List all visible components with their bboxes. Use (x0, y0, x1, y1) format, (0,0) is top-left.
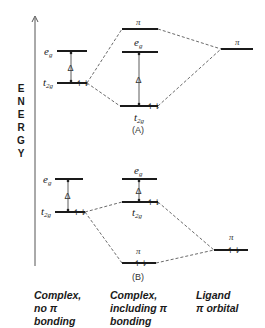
caption-line: Ligand (196, 289, 238, 302)
eg-label: eg (44, 45, 53, 59)
delta-symbol: Δ (136, 186, 142, 196)
correlation-line (158, 202, 214, 250)
pi-label: π (229, 232, 234, 242)
caption-including-pi-bonding: Complex, including π bonding (110, 289, 167, 328)
caption-line: no π (34, 302, 81, 315)
correlation-line (156, 250, 214, 263)
electron-pair: ↿⇂ (147, 102, 160, 111)
electron-pair: ↿⇂ (134, 259, 147, 268)
correlation-line (158, 29, 221, 49)
delta-symbol: Δ (65, 191, 71, 201)
correlation-line (85, 212, 122, 263)
eg-label: eg (134, 164, 143, 178)
pi-label: π (136, 246, 141, 256)
eg-label: eg (43, 173, 52, 187)
pi-label: π (136, 17, 141, 27)
panel-a: eg t2g ↿⇂ Δ π eg ↿⇂ t2g Δ (A) π (43, 17, 253, 135)
panel-b: eg t2g ↿⇂ Δ eg ↿⇂ t2g Δ π ↿⇂ (B) π ↿⇂ (41, 164, 248, 282)
pi-label: π (235, 37, 240, 47)
caption-line: bonding (34, 315, 81, 328)
panel-b-tag: (B) (132, 272, 144, 282)
correlation-line (87, 29, 122, 83)
eg-label: eg (134, 36, 143, 50)
correlation-line (158, 49, 221, 106)
caption-no-pi-bonding: Complex, no π bonding (34, 289, 81, 328)
electron-pair: ↿⇂ (73, 208, 86, 217)
t2g-label: t2g (134, 111, 145, 125)
t2g-label: t2g (41, 205, 52, 219)
correlation-line (87, 83, 120, 106)
caption-line: bonding (110, 315, 167, 328)
mo-diagram: eg t2g ↿⇂ Δ π eg ↿⇂ t2g Δ (A) π eg t2g ↿ (0, 0, 265, 328)
caption-line: including π (110, 302, 167, 315)
caption-line: Complex, (34, 289, 81, 302)
delta-symbol: Δ (68, 63, 74, 73)
caption-line: π orbital (196, 302, 238, 315)
caption-ligand-pi-orbital: Ligand π orbital (196, 289, 238, 315)
t2g-label: t2g (132, 206, 143, 220)
t2g-label: t2g (43, 76, 54, 90)
panel-a-tag: (A) (132, 125, 144, 135)
caption-line: Complex, (110, 289, 167, 302)
delta-symbol: Δ (136, 75, 142, 85)
correlation-line (85, 202, 122, 212)
electron-pair: ↿⇂ (227, 246, 240, 255)
